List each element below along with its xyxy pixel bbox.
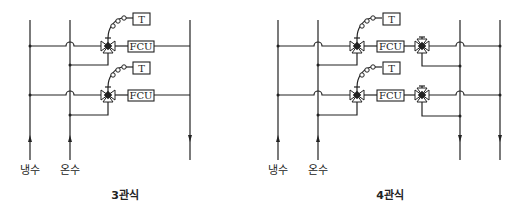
thermostat-label: T bbox=[138, 14, 145, 25]
four-way-valve-icon bbox=[415, 37, 429, 53]
hot-water-label: 온수 bbox=[60, 164, 80, 177]
chilled-water-label: 냉수 bbox=[268, 164, 288, 177]
fcu-label: FCU bbox=[379, 41, 402, 52]
sensor-coil-icon bbox=[357, 16, 382, 38]
three-way-valve-icon bbox=[350, 38, 364, 53]
three-way-valve-icon bbox=[101, 87, 115, 102]
diagram-title: 4관식 bbox=[376, 188, 404, 202]
thermostat-label: T bbox=[388, 63, 395, 74]
diagram-title: 3관식 bbox=[111, 188, 139, 202]
thermostat-label: T bbox=[388, 14, 395, 25]
diagram-3-pipe bbox=[28, 13, 192, 160]
fcu-label: FCU bbox=[129, 90, 152, 101]
fcu-label: FCU bbox=[379, 90, 402, 101]
three-way-valve-icon bbox=[350, 87, 364, 102]
sensor-coil-icon bbox=[108, 65, 133, 87]
piping-diagrams: T FCU T FCU 냉수 온수 3관식 T FCU T FCU 냉수 온수 … bbox=[0, 0, 520, 215]
hot-water-label: 온수 bbox=[308, 164, 328, 177]
sensor-coil-icon bbox=[357, 65, 382, 87]
sensor-coil-icon bbox=[108, 16, 133, 38]
unit-row-2 bbox=[29, 62, 191, 117]
unit-row-1 bbox=[29, 13, 191, 67]
thermostat-label: T bbox=[138, 63, 145, 74]
three-way-valve-icon bbox=[101, 38, 115, 53]
chilled-water-label: 냉수 bbox=[20, 164, 40, 177]
fcu-label: FCU bbox=[129, 41, 152, 52]
diagram-4-pipe bbox=[276, 13, 502, 160]
four-way-valve-icon bbox=[415, 86, 429, 102]
